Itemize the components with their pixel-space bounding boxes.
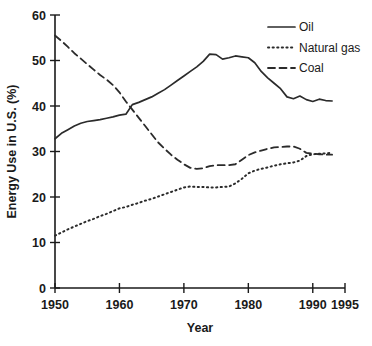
y-tick-label-40: 40 (32, 100, 46, 114)
x-tick-label-1995: 1995 (331, 298, 359, 312)
y-tick-label-0: 0 (39, 282, 46, 296)
legend-label-coal: Coal (299, 61, 324, 75)
y-tick-label-60: 60 (32, 9, 46, 23)
x-axis-title: Year (187, 321, 214, 335)
legend-label-oil: Oil (299, 20, 314, 34)
x-tick-label-1970: 1970 (170, 298, 198, 312)
x-tick-label-1960: 1960 (106, 298, 134, 312)
series-line-oil (55, 54, 332, 139)
y-tick-label-30: 30 (32, 145, 46, 159)
series-line-natural-gas (55, 153, 332, 236)
series-line-coal (55, 35, 332, 168)
legend-label-natural-gas: Natural gas (299, 41, 360, 55)
y-tick-label-50: 50 (32, 54, 46, 68)
x-tick-label-1990: 1990 (299, 298, 327, 312)
y-axis-title: Energy Use in U.S. (%) (5, 84, 19, 218)
y-tick-label-20: 20 (32, 191, 46, 205)
x-tick-label-1980: 1980 (234, 298, 262, 312)
chart-canvas: 0102030405060195019601970198019901995Yea… (0, 0, 372, 346)
energy-use-line-chart: 0102030405060195019601970198019901995Yea… (0, 0, 372, 346)
x-tick-label-1950: 1950 (41, 298, 69, 312)
y-tick-label-10: 10 (32, 236, 46, 250)
